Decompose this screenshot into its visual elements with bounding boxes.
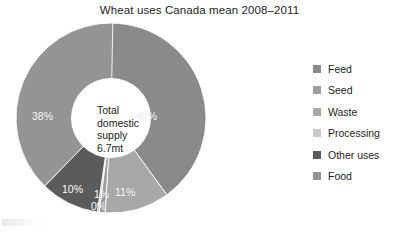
donut-plot-area: Total domestic supply 6.7mt 40% 38% 10% … xyxy=(15,22,207,214)
legend-swatch-icon xyxy=(313,65,321,73)
legend-item-waste[interactable]: Waste xyxy=(313,101,399,123)
chart-title: Wheat uses Canada mean 2008–2011 xyxy=(0,4,399,16)
legend-item-food[interactable]: Food xyxy=(313,166,399,188)
donut-chart-figure: Wheat uses Canada mean 2008–2011 Total d… xyxy=(0,0,399,236)
scan-artifact xyxy=(2,219,48,226)
legend-item-label: Food xyxy=(328,171,352,182)
legend-swatch-icon xyxy=(313,108,321,116)
legend-swatch-icon xyxy=(313,129,321,137)
legend-item-seed[interactable]: Seed xyxy=(313,80,399,102)
legend-item-label: Seed xyxy=(328,85,353,96)
legend-item-label: Waste xyxy=(328,107,357,118)
legend-item-label: Other uses xyxy=(328,150,379,161)
legend-swatch-icon xyxy=(313,86,321,94)
legend-swatch-icon xyxy=(313,172,321,180)
chart-legend: FeedSeedWasteProcessingOther usesFood xyxy=(313,58,399,187)
donut-svg xyxy=(15,22,207,214)
legend-item-label: Feed xyxy=(328,64,352,75)
legend-item-processing[interactable]: Processing xyxy=(313,123,399,145)
legend-swatch-icon xyxy=(313,151,321,159)
legend-item-feed[interactable]: Feed xyxy=(313,58,399,80)
legend-item-other-uses[interactable]: Other uses xyxy=(313,144,399,166)
legend-item-label: Processing xyxy=(328,128,380,139)
donut-hole xyxy=(71,78,151,158)
